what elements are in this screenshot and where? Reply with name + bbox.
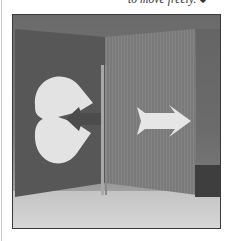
caption-text: to move freely.◆	[128, 0, 206, 5]
center-divider-shadow	[105, 65, 107, 195]
right-corner-shadow	[195, 165, 220, 197]
popup-card-illustration	[13, 15, 220, 228]
caption-fragment: to move freely.	[128, 0, 196, 5]
popup-card-photo	[12, 14, 221, 229]
table-surface	[13, 191, 220, 228]
end-mark-icon: ◆	[199, 0, 206, 4]
right-panel	[105, 29, 197, 195]
page-gutter-line	[1, 0, 2, 241]
center-divider	[101, 65, 104, 195]
